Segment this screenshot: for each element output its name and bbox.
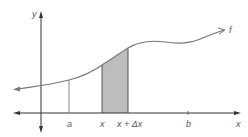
x-axis-label: x — [235, 119, 241, 129]
x-axis-right-arrow-icon — [234, 111, 241, 115]
label-a: a — [67, 119, 72, 129]
y-axis-up-arrow-icon — [39, 11, 43, 18]
y-axis-label: y — [31, 9, 37, 19]
label-x-plus-dx: x + Δx — [116, 119, 143, 129]
area-under-curve-diagram: y x f a x x + Δx b — [0, 0, 248, 137]
label-x: x — [99, 119, 105, 129]
x-axis-left-arrow-icon — [13, 111, 20, 115]
shaded-region — [102, 48, 128, 113]
y-axis-down-arrow-icon — [39, 126, 43, 133]
label-b: b — [186, 119, 191, 129]
function-label: f — [229, 25, 233, 35]
curve-left-arrow-icon — [13, 87, 20, 92]
